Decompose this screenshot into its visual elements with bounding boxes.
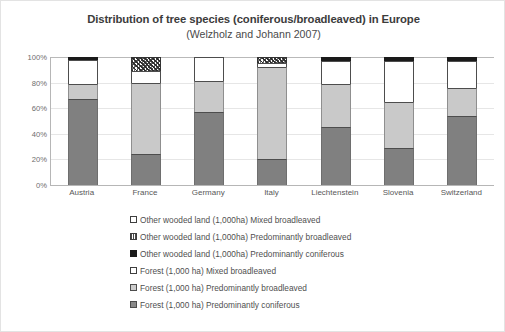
legend-label: Forest (1,000 ha) Mixed broadleaved <box>140 266 276 276</box>
plot-area <box>50 57 494 186</box>
legend-label: Other wooded land (1,000ha) Mixed broadl… <box>140 215 320 225</box>
bar-segment-mixed[interactable] <box>194 57 224 81</box>
y-tick-80: 80% <box>32 78 47 87</box>
page-title: Distribution of tree species (coniferous… <box>1 12 505 27</box>
bar-slot-italy <box>241 57 304 185</box>
bar-segment-conif[interactable] <box>321 127 351 185</box>
legend-item-owl-mixed-broadleaved[interactable]: Other wooded land (1,000ha) Mixed broadl… <box>130 211 470 228</box>
bar-segment-conif[interactable] <box>257 159 287 185</box>
bar-slot-liechtenstein <box>304 57 367 185</box>
legend-swatch-icon <box>130 216 137 223</box>
bar-segment-mixed[interactable] <box>68 60 98 84</box>
chart-subtitle: (Welzholz and Johann 2007) <box>1 27 505 42</box>
bar-segment-conif[interactable] <box>447 116 477 185</box>
bar-segment-broad[interactable] <box>68 84 98 99</box>
bar-segment-broad[interactable] <box>257 67 287 159</box>
legend-item-forest-predominantly-coniferous[interactable]: Forest (1,000 ha) Predominantly conifero… <box>130 296 470 313</box>
y-tick-20: 20% <box>32 155 47 164</box>
legend-item-owl-predominantly-broadleaved[interactable]: Other wooded land (1,000ha) Predominantl… <box>130 228 470 245</box>
x-tick-slovenia: Slovenia <box>366 188 429 197</box>
chart-figure: Distribution of tree species (coniferous… <box>0 0 505 332</box>
x-tick-austria: Austria <box>50 188 113 197</box>
legend-item-forest-predominantly-broadleaved[interactable]: Forest (1,000 ha) Predominantly broadlea… <box>130 279 470 296</box>
y-tick-0: 0% <box>36 181 47 190</box>
bar-segment-conif[interactable] <box>68 99 98 185</box>
bar-segment-broad[interactable] <box>194 81 224 112</box>
bar-slot-slovenia <box>367 57 430 185</box>
legend-label: Forest (1,000 ha) Predominantly broadlea… <box>140 283 307 293</box>
bar-segment-mixed[interactable] <box>447 61 477 88</box>
bar-segment-broad[interactable] <box>447 88 477 116</box>
bar-segment-conif[interactable] <box>384 148 414 185</box>
bar-slot-france <box>114 57 177 185</box>
legend-item-owl-predominantly-coniferous[interactable]: Other wooded land (1,000ha) Predominantl… <box>130 245 470 262</box>
x-tick-germany: Germany <box>177 188 240 197</box>
bar-segment-mixed[interactable] <box>384 61 414 102</box>
stacked-bar[interactable] <box>194 57 224 185</box>
y-tick-40: 40% <box>32 129 47 138</box>
stacked-bar[interactable] <box>131 57 161 185</box>
bar-segment-conif[interactable] <box>194 112 224 185</box>
stacked-bar[interactable] <box>257 57 287 185</box>
chart-legend: Other wooded land (1,000ha) Mixed broadl… <box>130 211 470 313</box>
y-tick-60: 60% <box>32 104 47 113</box>
x-tick-france: France <box>113 188 176 197</box>
stacked-bar[interactable] <box>384 57 414 185</box>
x-tick-switzerland: Switzerland <box>430 188 493 197</box>
bar-segment-mixed[interactable] <box>321 61 351 84</box>
bar-segment-broad[interactable] <box>131 83 161 155</box>
legend-label: Other wooded land (1,000ha) Predominantl… <box>140 249 344 259</box>
legend-swatch-icon <box>130 233 137 240</box>
legend-swatch-icon <box>130 267 137 274</box>
y-axis: 100% 80% 60% 40% 20% 0% <box>15 57 47 185</box>
bar-segment-mixed[interactable] <box>131 71 161 83</box>
x-tick-liechtenstein: Liechtenstein <box>303 188 366 197</box>
legend-item-forest-mixed-broadleaved[interactable]: Forest (1,000 ha) Mixed broadleaved <box>130 262 470 279</box>
bar-segment-owl-broad[interactable] <box>131 57 161 71</box>
legend-swatch-icon <box>130 301 137 308</box>
x-axis: Austria France Germany Italy Liechtenste… <box>50 188 493 197</box>
bar-slot-germany <box>178 57 241 185</box>
chart-title-block: Distribution of tree species (coniferous… <box>1 12 505 42</box>
bar-slot-austria <box>51 57 114 185</box>
stacked-bar[interactable] <box>68 57 98 185</box>
legend-label: Forest (1,000 ha) Predominantly conifero… <box>140 300 300 310</box>
stacked-bar[interactable] <box>447 57 477 185</box>
bar-segment-conif[interactable] <box>131 154 161 185</box>
bar-segment-broad[interactable] <box>384 102 414 148</box>
y-tick-100: 100% <box>28 53 47 62</box>
bar-group <box>51 57 494 185</box>
legend-swatch-icon <box>130 250 137 257</box>
legend-swatch-icon <box>130 284 137 291</box>
bar-segment-broad[interactable] <box>321 84 351 128</box>
bar-slot-switzerland <box>431 57 494 185</box>
stacked-bar[interactable] <box>321 57 351 185</box>
x-tick-italy: Italy <box>240 188 303 197</box>
legend-label: Other wooded land (1,000ha) Predominantl… <box>140 232 351 242</box>
